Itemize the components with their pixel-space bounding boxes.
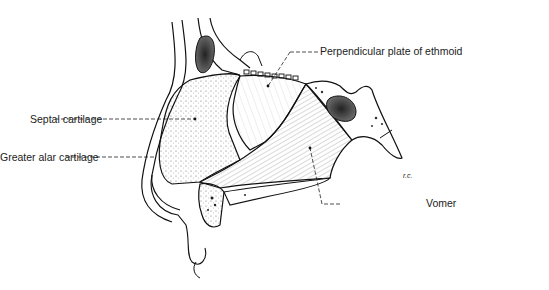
- nasal-septum-illustration: [0, 0, 549, 290]
- diagram-canvas: Perpendicular plate of ethmoid Septal ca…: [0, 0, 549, 290]
- nose-tip: [151, 175, 206, 264]
- label-septal-cartilage: Septal cartilage: [30, 113, 102, 125]
- frontal-sinus: [196, 36, 215, 73]
- maxilla: [199, 183, 224, 226]
- label-perpendicular-plate: Perpendicular plate of ethmoid: [320, 45, 462, 57]
- label-greater-alar-cartilage: Greater alar cartilage: [0, 151, 99, 163]
- label-vomer: Vomer: [426, 197, 456, 209]
- artist-signature: r.c.: [403, 172, 412, 179]
